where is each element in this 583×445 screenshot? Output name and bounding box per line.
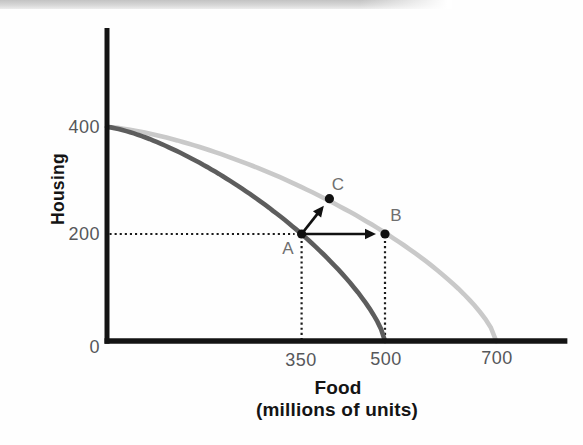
point-label-a: A [282, 240, 293, 257]
ppf-chart-canvas [0, 0, 583, 445]
x-axis-title: Food [314, 378, 361, 397]
point-dot-c [325, 194, 334, 203]
ppf-figure: 400 200 0 350 500 700 Housing Food (mill… [0, 0, 583, 445]
point-label-c: C [332, 176, 344, 193]
point-label-b: B [390, 207, 401, 224]
arrow-head-a-to-b [365, 229, 376, 239]
point-dot-a [297, 229, 306, 238]
y-tick-0: 0 [89, 338, 100, 356]
x-tick-700: 700 [481, 349, 513, 367]
y-tick-200: 200 [68, 225, 100, 243]
x-tick-350: 350 [285, 351, 317, 369]
point-dot-b [380, 229, 389, 238]
x-tick-500: 500 [370, 350, 402, 368]
x-axis-subtitle: (millions of units) [256, 400, 418, 419]
y-axis-title: Housing [50, 153, 68, 225]
y-tick-400: 400 [68, 118, 100, 136]
